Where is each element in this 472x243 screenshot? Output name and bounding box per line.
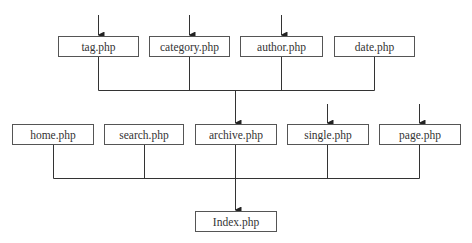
node-category-php: category.php: [149, 36, 230, 57]
node-page-php: page.php: [379, 124, 461, 145]
node-label: archive.php: [209, 129, 263, 141]
node-author-php: author.php: [240, 36, 323, 57]
node-label: single.php: [304, 129, 352, 141]
node-index-php: Index.php: [195, 211, 277, 232]
template-hierarchy-diagram: tag.php category.php author.php date.php…: [0, 0, 472, 243]
node-label: category.php: [160, 41, 219, 53]
node-home-php: home.php: [12, 124, 94, 145]
node-tag-php: tag.php: [58, 36, 139, 57]
node-archive-php: archive.php: [195, 124, 277, 145]
node-label: date.php: [355, 41, 394, 53]
node-label: author.php: [257, 41, 306, 53]
node-label: Index.php: [213, 216, 259, 228]
node-label: page.php: [399, 129, 441, 141]
node-date-php: date.php: [334, 36, 415, 57]
node-search-php: search.php: [104, 124, 184, 145]
node-label: search.php: [119, 129, 169, 141]
node-label: tag.php: [81, 41, 115, 53]
node-single-php: single.php: [287, 124, 369, 145]
node-label: home.php: [30, 129, 76, 141]
